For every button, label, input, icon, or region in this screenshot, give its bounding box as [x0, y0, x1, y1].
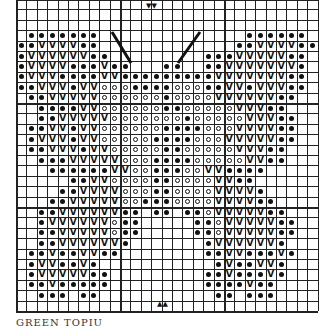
antennae-lines [0, 0, 325, 330]
antenna-line [178, 32, 200, 63]
antenna-line [112, 32, 131, 63]
chart-caption: GREEN TOPIU [16, 317, 103, 328]
top-markers: ▼▼ [146, 2, 157, 10]
bottom-markers: ▲▲ [157, 300, 168, 308]
